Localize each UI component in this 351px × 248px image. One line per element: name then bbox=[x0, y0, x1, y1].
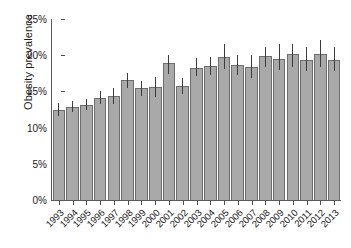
bar-group bbox=[300, 19, 313, 200]
error-bar bbox=[292, 44, 293, 67]
x-tick-mark bbox=[73, 201, 74, 205]
bar bbox=[273, 59, 286, 200]
y-tick-label: 20% bbox=[27, 50, 47, 61]
error-bar bbox=[141, 81, 142, 96]
x-tick-mark bbox=[155, 201, 156, 205]
bar bbox=[300, 60, 313, 200]
bar-group bbox=[94, 19, 107, 200]
error-bar bbox=[127, 73, 128, 88]
bar bbox=[231, 65, 244, 200]
bar-group bbox=[66, 19, 79, 200]
y-tick-label: 25% bbox=[27, 14, 47, 25]
error-bar bbox=[196, 58, 197, 76]
error-bar bbox=[279, 44, 280, 71]
error-bar bbox=[210, 57, 211, 75]
bar bbox=[135, 88, 148, 200]
bar-group bbox=[163, 19, 176, 200]
bar-group bbox=[245, 19, 258, 200]
y-tick-label: 5% bbox=[33, 158, 47, 169]
error-bar bbox=[155, 77, 156, 97]
x-tick-mark bbox=[320, 201, 321, 205]
y-axis-tick-labels: 0%5%10%15%20%25% bbox=[14, 0, 47, 248]
bar-group bbox=[80, 19, 93, 200]
bar-group bbox=[218, 19, 231, 200]
error-bar bbox=[168, 55, 169, 74]
plot-area bbox=[52, 19, 341, 200]
error-bar bbox=[306, 47, 307, 71]
y-tick-label: 10% bbox=[27, 122, 47, 133]
bar-group bbox=[53, 19, 66, 200]
bar bbox=[204, 66, 217, 200]
bar-group bbox=[314, 19, 327, 200]
bar-group bbox=[190, 19, 203, 200]
x-tick-mark bbox=[224, 201, 225, 205]
x-tick-mark bbox=[265, 201, 266, 205]
bar bbox=[66, 107, 79, 200]
error-bar bbox=[113, 88, 114, 105]
error-bar bbox=[334, 47, 335, 71]
y-tick-label: 0% bbox=[33, 195, 47, 206]
bar bbox=[190, 68, 203, 200]
x-tick-mark bbox=[100, 201, 101, 205]
y-tick-label: 15% bbox=[27, 86, 47, 97]
bar bbox=[94, 98, 107, 200]
x-tick-mark bbox=[169, 201, 170, 205]
bar-group bbox=[273, 19, 286, 200]
x-tick-mark bbox=[238, 201, 239, 205]
error-bar bbox=[100, 91, 101, 105]
bar bbox=[176, 86, 189, 200]
x-tick-mark bbox=[114, 201, 115, 205]
x-tick-mark bbox=[307, 201, 308, 205]
bar-group bbox=[108, 19, 121, 200]
x-tick-mark bbox=[210, 201, 211, 205]
bar bbox=[121, 80, 134, 200]
bar-group bbox=[287, 19, 300, 200]
x-tick-mark bbox=[252, 201, 253, 205]
bar bbox=[163, 63, 176, 200]
error-bar bbox=[86, 99, 87, 110]
error-bar bbox=[237, 55, 238, 75]
bar bbox=[149, 87, 162, 200]
bar bbox=[287, 54, 300, 200]
bar bbox=[80, 105, 93, 200]
bar bbox=[245, 67, 258, 200]
error-bar bbox=[58, 103, 59, 116]
x-tick-mark bbox=[141, 201, 142, 205]
bar bbox=[108, 96, 121, 200]
bar-group bbox=[121, 19, 134, 200]
bar-group bbox=[259, 19, 272, 200]
bar bbox=[328, 60, 341, 200]
error-bar bbox=[251, 55, 252, 77]
bar-group bbox=[231, 19, 244, 200]
error-bar bbox=[224, 44, 225, 69]
error-bar bbox=[72, 101, 73, 112]
x-tick-mark bbox=[197, 201, 198, 205]
x-axis-line bbox=[51, 200, 341, 201]
bar bbox=[314, 54, 327, 200]
x-tick-mark bbox=[334, 201, 335, 205]
bar-group bbox=[204, 19, 217, 200]
error-bar bbox=[265, 47, 266, 67]
x-tick-mark bbox=[59, 201, 60, 205]
obesity-prevalence-bar-chart: Obesity prevalence 0%5%10%15%20%25% 1993… bbox=[0, 0, 351, 248]
x-tick-mark bbox=[86, 201, 87, 205]
bar bbox=[259, 56, 272, 200]
bar-group bbox=[176, 19, 189, 200]
bar-group bbox=[328, 19, 341, 200]
error-bar bbox=[320, 40, 321, 67]
x-tick-mark bbox=[293, 201, 294, 205]
x-tick-mark bbox=[279, 201, 280, 205]
error-bar bbox=[182, 78, 183, 94]
bar-group bbox=[135, 19, 148, 200]
x-tick-mark bbox=[183, 201, 184, 205]
x-tick-mark bbox=[128, 201, 129, 205]
bar-group bbox=[149, 19, 162, 200]
bar bbox=[218, 57, 231, 200]
bar bbox=[53, 110, 66, 201]
